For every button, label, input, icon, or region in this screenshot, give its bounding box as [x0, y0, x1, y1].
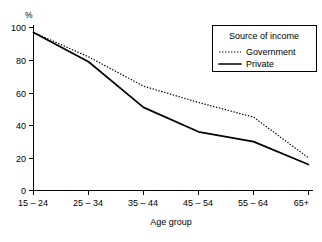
- chart-legend: Source of income Government Private: [213, 26, 317, 72]
- y-tick-label-100: 100: [11, 23, 26, 33]
- y-tick-label-0: 0: [21, 186, 26, 196]
- x-tick-label-25-34: 25 – 34: [73, 198, 103, 208]
- line-chart: % 100 80 60 40 20 0: [0, 0, 322, 242]
- y-axis-tick-labels: 100 80 60 40 20 0: [11, 23, 26, 196]
- y-axis-ticks: [29, 28, 34, 191]
- legend-entry-private: Private: [246, 59, 274, 69]
- x-axis-title: Age group: [150, 217, 192, 227]
- x-tick-label-15-24: 15 – 24: [18, 198, 48, 208]
- y-tick-label-80: 80: [16, 56, 26, 66]
- y-tick-label-60: 60: [16, 89, 26, 99]
- legend-entry-government: Government: [246, 47, 296, 57]
- legend-title: Source of income: [229, 31, 299, 41]
- y-tick-label-20: 20: [16, 154, 26, 164]
- x-tick-label-65plus: 65+: [294, 198, 309, 208]
- x-tick-label-45-54: 45 – 54: [183, 198, 213, 208]
- chart-container: % 100 80 60 40 20 0: [0, 0, 322, 242]
- y-axis-unit-label: %: [25, 10, 33, 20]
- y-tick-label-40: 40: [16, 121, 26, 131]
- x-tick-label-55-64: 55 – 64: [238, 198, 268, 208]
- x-axis-tick-labels: 15 – 24 25 – 34 35 – 44 45 – 54 55 – 64 …: [18, 198, 309, 208]
- x-tick-label-35-44: 35 – 44: [128, 198, 158, 208]
- x-axis-ticks: [34, 191, 309, 196]
